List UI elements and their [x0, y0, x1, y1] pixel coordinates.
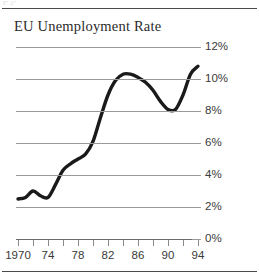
x-tick-1984	[123, 240, 124, 246]
y-axis-label-4%: 4%	[205, 169, 222, 180]
x-tick-1980	[93, 240, 94, 246]
x-axis-line	[16, 239, 192, 240]
y-axis-label-8%: 8%	[205, 105, 222, 116]
x-axis-label-94: 94	[192, 249, 205, 261]
x-axis-label-90: 90	[162, 249, 175, 261]
y-axis-label-6%: 6%	[205, 137, 222, 148]
x-axis-label-74: 74	[42, 249, 55, 261]
y-axis-label-0%: 0%	[205, 233, 222, 244]
plot-area: 0%2%4%6%8%10%12%1970747882869094	[0, 8, 259, 272]
y-tick-12%	[192, 47, 201, 48]
gridline-2%	[16, 207, 192, 208]
x-tick-1978	[78, 240, 79, 246]
x-axis-label-86: 86	[132, 249, 145, 261]
y-axis-label-2%: 2%	[205, 201, 222, 212]
x-tick-1994	[198, 240, 199, 246]
x-axis-label-1970: 1970	[5, 249, 31, 261]
x-axis-label-82: 82	[102, 249, 115, 261]
chart-figure: EU Unemployment Rate 0%2%4%6%8%10%12%197…	[0, 8, 259, 272]
y-tick-0%	[192, 239, 201, 240]
x-tick-1974	[48, 240, 49, 246]
x-tick-1972	[33, 240, 34, 246]
x-tick-1992	[183, 240, 184, 246]
x-tick-1986	[138, 240, 139, 246]
y-tick-10%	[192, 79, 201, 80]
gridline-4%	[16, 175, 192, 176]
x-tick-1990	[168, 240, 169, 246]
y-tick-2%	[192, 207, 201, 208]
page-top-artifact: I'' ,i''	[3, 0, 43, 5]
y-axis-label-12%: 12%	[205, 41, 228, 52]
x-tick-1988	[153, 240, 154, 246]
x-tick-1976	[63, 240, 64, 246]
y-tick-6%	[192, 143, 201, 144]
x-tick-1982	[108, 240, 109, 246]
y-tick-4%	[192, 175, 201, 176]
y-axis-label-10%: 10%	[205, 73, 228, 84]
x-axis-label-78: 78	[72, 249, 85, 261]
x-tick-1970	[18, 240, 19, 246]
gridline-6%	[16, 143, 192, 144]
gridline-8%	[16, 111, 192, 112]
gridline-10%	[16, 79, 192, 80]
y-tick-8%	[192, 111, 201, 112]
gridline-12%	[16, 47, 192, 48]
